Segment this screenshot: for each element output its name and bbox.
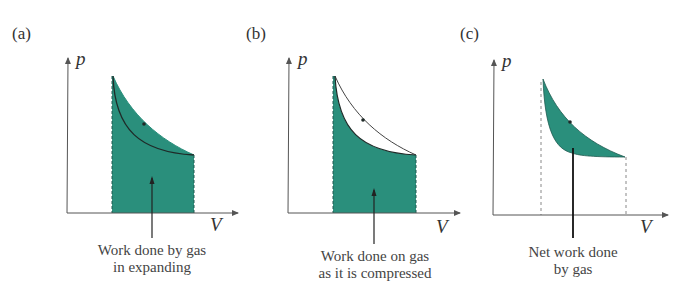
- direction-dot-c: [568, 120, 572, 124]
- y-axis-b: [288, 58, 289, 213]
- panel-b-graph: [288, 58, 460, 244]
- panel-b-caption: Work done on gas as it is compressed: [300, 248, 450, 282]
- panel-b-label: (b): [246, 24, 266, 44]
- net-work-area-c: [543, 79, 625, 157]
- panel-c-v-label: V: [640, 216, 652, 238]
- panel-b-p-label: p: [298, 48, 308, 70]
- panel-c-label: (c): [460, 24, 479, 44]
- panel-a-v-label: V: [210, 214, 222, 236]
- panel-a-label: (a): [12, 24, 31, 44]
- panel-a-graph: [67, 58, 238, 238]
- panel-c-p-label: p: [502, 50, 512, 72]
- y-axis-c: [493, 60, 494, 215]
- panel-c-caption: Net work done by gas: [513, 244, 633, 278]
- panel-b-v-label: V: [436, 216, 448, 238]
- panel-a-caption: Work done by gas in expanding: [82, 242, 222, 276]
- direction-dot-a: [142, 122, 146, 126]
- direction-dot-b: [361, 118, 365, 122]
- panel-c-graph: [493, 60, 668, 238]
- panel-a-p-label: p: [76, 48, 86, 70]
- y-axis-a: [67, 58, 68, 213]
